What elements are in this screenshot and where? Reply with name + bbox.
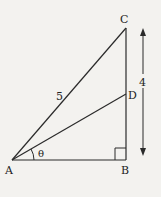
- label-hypotenuse-length: 5: [56, 90, 63, 103]
- label-angle-theta: θ: [38, 148, 44, 159]
- label-c: C: [120, 13, 128, 26]
- label-d: D: [128, 89, 137, 102]
- triangle-diagram: A B C D 5 4 θ: [0, 0, 161, 197]
- background: [0, 0, 161, 197]
- label-height-length: 4: [139, 76, 146, 89]
- label-a: A: [4, 164, 14, 177]
- label-b: B: [121, 164, 129, 177]
